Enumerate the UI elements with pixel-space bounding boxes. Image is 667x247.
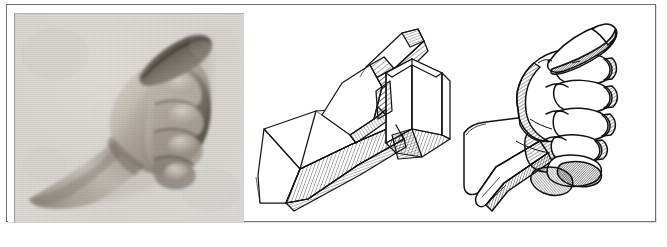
figure-root: Comparative study of the clenched fist [0, 0, 667, 247]
panel-contour-drawing [452, 7, 652, 220]
photograph-image [14, 13, 244, 223]
block-construction-artwork [246, 7, 456, 220]
panel-photograph [8, 9, 243, 222]
contour-drawing-artwork [452, 7, 652, 220]
panel-block-construction [246, 7, 456, 220]
photograph-hand-artwork [15, 14, 244, 223]
